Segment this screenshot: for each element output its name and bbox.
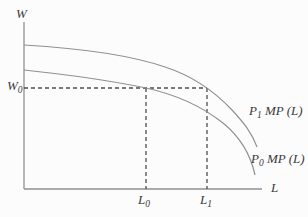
y-axis-label: W	[16, 7, 27, 20]
l0-label: L0	[138, 193, 150, 210]
x-axis-label: L	[271, 181, 278, 194]
w0-label-sub: 0	[18, 85, 23, 95]
w0-label-base: W	[7, 78, 18, 93]
w0-label: W0	[7, 79, 23, 96]
curve-p0-label-rest: MP (L)	[264, 151, 305, 166]
curve-p1-label-rest: MP (L)	[262, 103, 303, 118]
l0-label-sub: 0	[145, 199, 150, 209]
curve-p0-label-base: P	[251, 151, 259, 166]
l1-label: L1	[200, 193, 212, 210]
labor-demand-diagram: W W0 L L0 L1 P1 MP (L) P0 MP (L)	[0, 0, 308, 217]
curve-p1-label-base: P	[249, 103, 257, 118]
curve-p1-label: P1 MP (L)	[249, 104, 303, 121]
l1-label-sub: 1	[207, 199, 212, 209]
curve-p0-label: P0 MP (L)	[251, 152, 305, 169]
